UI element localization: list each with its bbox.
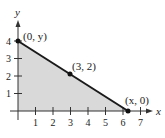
x-tick-label: 4 [86,117,91,128]
x-tick-label: 3 [68,117,73,128]
point-x-0 [126,109,131,114]
x-axis-label: x [155,105,161,117]
y-tick-label: 4 [6,36,11,47]
x-tick-label: 5 [103,117,108,128]
x-tick-label: 6 [121,117,126,128]
point-label-3-2: (3, 2) [72,60,96,73]
y-tick-label: 1 [6,88,11,99]
x-tick-label: 2 [51,117,56,128]
x-tick-label: 7 [138,117,143,128]
chart: x y 1 2 3 4 5 6 7 1 2 3 4 (0, y) (3, 2) … [0,0,165,138]
y-tick-label: 2 [6,71,11,82]
point-label-0-y: (0, y) [23,30,47,43]
y-axis-arrow-icon [16,20,21,27]
point-3-2 [68,72,73,77]
x-axis-arrow-icon [146,109,153,114]
point-label-x-0: (x, 0) [125,94,149,107]
y-axis-label: y [14,6,20,18]
point-0-y [16,39,21,44]
x-tick-label: 1 [33,117,38,128]
y-tick-label: 3 [6,53,11,64]
